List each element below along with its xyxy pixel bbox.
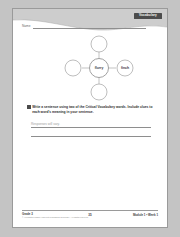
name-row: Name <box>22 25 146 29</box>
answer-lines: Responses will vary. <box>31 119 151 137</box>
page-footer: Grade 3 © Houghton Mifflin Harcourt Publ… <box>22 210 158 222</box>
answer-line-1-text: Responses will vary. <box>31 123 60 126</box>
word-web-node-right: finch <box>121 66 129 70</box>
answer-line-1[interactable]: Responses will vary. <box>31 119 151 128</box>
worksheet-background: Vocabulary Name <box>0 0 180 237</box>
instruction-text: Write a sentence using two of the Critic… <box>32 105 155 115</box>
answer-line-2[interactable] <box>31 128 151 137</box>
worksheet-page: Vocabulary Name <box>12 8 168 228</box>
word-web-diagram: finch flurry <box>63 35 135 101</box>
name-input-line[interactable] <box>33 28 146 29</box>
footer-divider <box>22 210 158 211</box>
footer-module-label: Module 1 • Week 1 <box>133 213 158 217</box>
word-web-node-center: flurry <box>95 66 104 70</box>
section-tab-vocabulary: Vocabulary <box>134 13 162 19</box>
activity-instruction: Write a sentence using two of the Critic… <box>27 105 155 115</box>
instruction-number-marker <box>27 105 31 109</box>
name-label: Name <box>22 25 31 29</box>
